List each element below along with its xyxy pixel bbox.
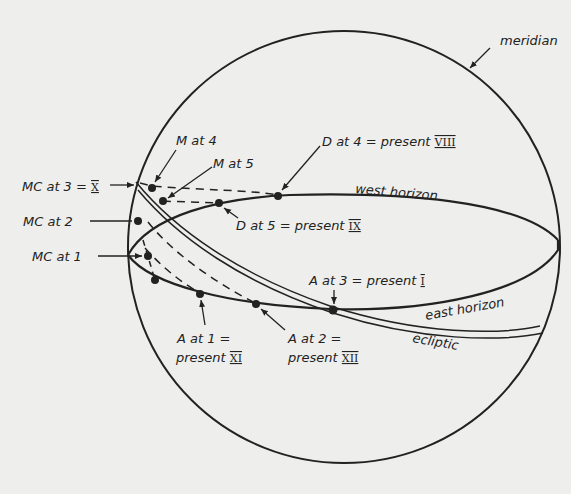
celestial-sphere-diagram: meridian west horizon east horizon eclip… (0, 0, 571, 494)
d4-leader (282, 146, 320, 190)
label-a-at-1-line2: present XI (175, 350, 242, 365)
meridian-leader (470, 48, 490, 68)
dashed-path-m-a1-short (143, 240, 155, 280)
label-mc-at-3: MC at 3 = X (22, 179, 99, 194)
point-m-at-5 (159, 197, 167, 205)
label-m-at-5: M at 5 (213, 156, 254, 171)
d5-leader (224, 208, 238, 218)
meridian-circle (128, 31, 560, 463)
m5-leader (168, 167, 212, 198)
label-a-at-1-line1: A at 1 = (176, 331, 231, 346)
label-west-horizon: west horizon (355, 181, 439, 203)
label-d-at-4: D at 4 = present VIII (322, 134, 456, 149)
point-a-at-1 (196, 290, 204, 298)
label-meridian: meridian (500, 33, 558, 48)
point-m-at-4 (148, 184, 156, 192)
dashed-path-m4-d4 (140, 183, 278, 195)
label-a-at-2-line1: A at 2 = (287, 331, 342, 346)
point-a-at-2 (252, 300, 260, 308)
a2-leader (261, 309, 285, 330)
label-d-at-5: D at 5 = present IX (236, 218, 361, 233)
point-d-at-4 (274, 192, 282, 200)
point-mc-at-1 (144, 252, 152, 260)
label-a-at-2-line2: present XII (287, 350, 358, 365)
ecliptic-line-lower (138, 190, 543, 338)
label-mc-at-2: MC at 2 (23, 214, 73, 229)
dashed-path-m5-d5 (163, 201, 218, 203)
a1-leader (201, 300, 205, 325)
m4-leader (155, 150, 176, 182)
label-a-at-3: A at 3 = present I (308, 273, 425, 288)
points (134, 184, 338, 315)
label-mc-at-1: MC at 1 (32, 249, 82, 264)
point-a-at-1-start (151, 276, 159, 284)
dashed-path-mc1-a1 (145, 248, 200, 293)
point-mc-at-2 (134, 217, 142, 225)
label-ecliptic: ecliptic (411, 330, 459, 353)
point-a-at-3 (329, 306, 338, 315)
point-d-at-5 (215, 199, 223, 207)
label-m-at-4: M at 4 (176, 133, 217, 148)
